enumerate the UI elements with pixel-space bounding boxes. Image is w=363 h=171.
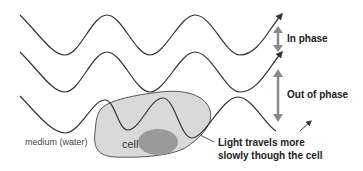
in-phase-arrow-icon — [273, 26, 283, 52]
cell-label: cell — [122, 138, 139, 150]
wave-middle — [20, 52, 282, 92]
light-label-line1: Light travels more — [218, 137, 305, 148]
cell-nucleus — [138, 129, 178, 155]
in-phase-label: In phase — [287, 33, 328, 44]
medium-label: medium (water) — [25, 137, 88, 147]
out-of-phase-arrow-icon — [273, 69, 283, 122]
out-of-phase-label: Out of phase — [287, 89, 348, 100]
light-label-line2: slowly though the cell — [218, 150, 322, 161]
pointer-line — [200, 135, 214, 142]
wave-bottom-arrow — [300, 121, 311, 131]
wave-top — [20, 14, 282, 55]
